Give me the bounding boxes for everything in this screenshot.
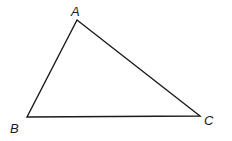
triangle-diagram: A B C: [0, 0, 232, 141]
vertex-label-c: C: [204, 113, 214, 128]
vertex-label-a: A: [70, 4, 80, 19]
vertex-label-b: B: [10, 121, 19, 136]
triangle-abc: [27, 20, 200, 117]
